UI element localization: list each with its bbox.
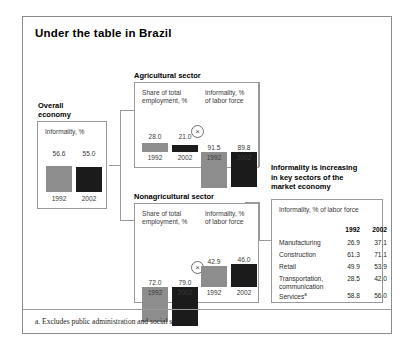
nonagricultural-informality-bar-1992: 42.9: [201, 266, 227, 287]
nonagricultural-share-bar-2002-year: 2002: [172, 289, 198, 296]
agricultural-informality-bar-2002-year: 2002: [231, 154, 257, 161]
nonagricultural-informality-header-line1: Informality, %: [205, 210, 244, 217]
sectors-row-v2002: 56.0: [367, 292, 387, 299]
nonagricultural-informality-header: Informality, % of labor force: [205, 210, 244, 226]
sectors-row-label: Retail: [279, 263, 296, 270]
sectors-row-label-line2: communication: [279, 283, 323, 290]
sectors-row-label: Servicesa: [279, 292, 307, 300]
agricultural-sector-panel: Share of total employment, % Informality…: [134, 82, 259, 168]
nonagricultural-informality-bar-2002-year: 2002: [231, 289, 257, 296]
connector-nonagri-out-vertical: [259, 202, 260, 240]
sectors-row-v2002: 42.0: [367, 275, 387, 282]
agricultural-informality-bar-2002-value: 89.8: [231, 144, 257, 151]
sectors-table-col-2002: 2002: [367, 226, 387, 233]
overall-bar-1992-year: 1992: [46, 195, 72, 202]
sectors-row-v2002: 53.9: [367, 263, 387, 270]
agricultural-share-header-line2: employment, %: [142, 97, 187, 104]
sectors-headline-line3: market economy: [271, 182, 331, 191]
agricultural-informality-header-line2: of labor force: [205, 97, 243, 104]
agricultural-share-bar-1992-value: 28.0: [142, 133, 168, 140]
overall-economy-label-line1: Overall: [38, 101, 63, 110]
nonagricultural-informality-bar-2002-rect: [231, 264, 257, 287]
sectors-table-header-row: 1992 2002: [272, 226, 382, 237]
sectors-row-label: Manufacturing: [279, 239, 321, 246]
overall-bar-1992-rect: [46, 166, 72, 192]
connector-agri-out-vertical: [259, 82, 260, 167]
agricultural-share-header: Share of total employment, %: [142, 89, 187, 105]
sectors-row-v2002: 37.1: [367, 239, 387, 246]
nonagricultural-share-bar-2002-value: 79.0: [172, 279, 198, 286]
overall-economy-label-line2: economy: [38, 110, 71, 119]
sectors-table-col-1992: 1992: [340, 226, 360, 233]
figure-panel: Under the table in Brazil Overall econom…: [22, 16, 392, 334]
nonagricultural-informality-bar-2002-value: 46.0: [231, 256, 257, 263]
connector-overall-to-nonagri: [120, 220, 134, 221]
sectors-row-v1992: 61.3: [340, 251, 360, 258]
sectors-headline-line2: in key sectors of the: [271, 173, 344, 182]
nonagricultural-informality-bar-1992-rect: [201, 266, 227, 287]
overall-bar-1992-value: 56.6: [46, 150, 72, 157]
sectors-row-v1992: 49.9: [340, 263, 360, 270]
sectors-row-v1992: 28.5: [340, 275, 360, 282]
agricultural-multiply-icon: ×: [191, 125, 204, 138]
overall-economy-header: Informality, %: [45, 128, 84, 136]
overall-bar-2002: 55.0: [76, 158, 102, 192]
agricultural-informality-header: Informality, % of labor force: [205, 89, 244, 105]
nonagricultural-share-bar-1992-value: 72.0: [142, 279, 168, 286]
agricultural-informality-header-line1: Informality, %: [205, 89, 244, 96]
sectors-table-caption: Informality, % of labor force: [279, 206, 359, 213]
overall-bar-2002-year: 2002: [76, 195, 102, 202]
nonagricultural-sector-title: Nonagricultural sector: [134, 192, 214, 201]
sectors-row-footnote-marker: a: [304, 292, 307, 297]
nonagricultural-share-bar-1992-year: 1992: [142, 289, 168, 296]
footnote-divider: [23, 309, 391, 310]
table-row: Transportation, communication 28.5 42.0: [272, 275, 382, 286]
sectors-row-v2002: 71.1: [367, 251, 387, 258]
nonagricultural-informality-bar-1992-value: 42.9: [201, 258, 227, 265]
sectors-headline-line1: Informality is increasing: [271, 163, 357, 172]
nonagricultural-informality-bar-2002: 46.0: [231, 264, 257, 287]
sectors-row-label: Transportation,: [279, 275, 323, 282]
agricultural-share-bar-1992-year: 1992: [142, 154, 168, 161]
agricultural-share-bar-2002: 21.0: [172, 141, 198, 152]
agricultural-sector-title: Agricultural sector: [134, 71, 201, 80]
overall-bar-2002-value: 55.0: [76, 150, 102, 157]
nonagricultural-informality-header-line2: of labor force: [205, 218, 243, 225]
nonagricultural-sector-panel: Share of total employment, % Informality…: [134, 203, 259, 303]
agricultural-share-bar-2002-year: 2002: [172, 154, 198, 161]
agricultural-informality-bar-1992-year: 1992: [201, 154, 227, 161]
agricultural-informality-bar-1992-value: 91.5: [201, 144, 227, 151]
connector-table-stem: [259, 240, 271, 241]
overall-economy-panel: Informality, % 56.6 1992 55.0 2002: [37, 121, 107, 209]
sectors-headline: Informality is increasing in key sectors…: [271, 163, 357, 192]
nonagricultural-share-header-line1: Share of total: [142, 210, 181, 217]
page-title: Under the table in Brazil: [35, 27, 172, 39]
sectors-row-v1992: 58.8: [340, 292, 360, 299]
connector-overall-stem: [109, 165, 120, 166]
sectors-row-label-text: Services: [279, 293, 304, 300]
figure-footnote: a. Excludes public administration and so…: [35, 317, 195, 326]
connector-overall-vertical: [120, 110, 121, 220]
agricultural-share-bar-1992: 28.0: [142, 141, 168, 152]
agricultural-share-header-line1: Share of total: [142, 89, 181, 96]
table-row: Servicesa 58.8 56.0: [272, 292, 382, 303]
sectors-row-label: Construction: [279, 251, 316, 258]
connector-overall-to-agri: [120, 110, 134, 111]
overall-bar-1992: 56.6: [46, 158, 72, 192]
nonagricultural-informality-bar-1992-year: 1992: [201, 289, 227, 296]
nonagricultural-share-header-line2: employment, %: [142, 218, 187, 225]
sectors-table-panel: Informality, % of labor force 1992 2002 …: [271, 199, 383, 303]
table-row: Retail 49.9 53.9: [272, 263, 382, 274]
overall-economy-label: Overall economy: [38, 101, 71, 119]
nonagricultural-share-header: Share of total employment, %: [142, 210, 187, 226]
table-row: Manufacturing 26.9 37.1: [272, 239, 382, 250]
overall-bar-2002-rect: [76, 167, 102, 192]
table-row: Construction 61.3 71.1: [272, 251, 382, 262]
agricultural-share-bar-2002-rect: [172, 145, 198, 152]
sectors-row-v1992: 26.9: [340, 239, 360, 246]
agricultural-share-bar-1992-rect: [142, 143, 168, 152]
